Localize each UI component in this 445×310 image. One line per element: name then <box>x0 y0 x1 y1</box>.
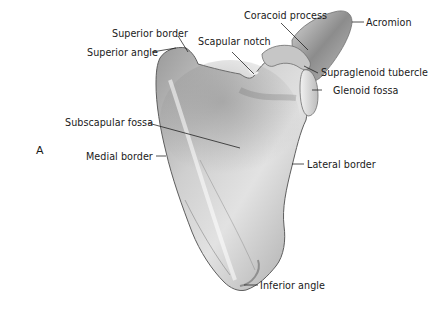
scapula-diagram: Coracoid process Acromion Superior borde… <box>0 0 445 310</box>
label-superior-border: Superior border <box>112 29 188 39</box>
label-supraglenoid-tubercle: Supraglenoid tubercle <box>321 68 428 78</box>
label-medial-border: Medial border <box>86 152 153 162</box>
label-glenoid-fossa: Glenoid fossa <box>333 86 399 96</box>
label-lateral-border: Lateral border <box>307 160 376 170</box>
label-scapular-notch: Scapular notch <box>198 37 271 47</box>
label-inferior-angle: Inferior angle <box>260 281 325 291</box>
figure-letter: A <box>36 145 44 156</box>
label-coracoid-process: Coracoid process <box>244 11 327 21</box>
label-subscapular-fossa: Subscapular fossa <box>65 118 153 128</box>
label-acromion: Acromion <box>366 18 412 28</box>
label-superior-angle: Superior angle <box>87 48 158 58</box>
